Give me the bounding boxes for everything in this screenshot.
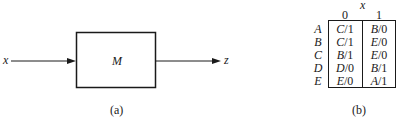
input-label: x [3, 54, 8, 66]
row-label-c: C [312, 49, 324, 61]
output-arrowhead-icon [212, 58, 221, 64]
table-cell: E/0 [363, 49, 395, 61]
row-label-a: A [312, 23, 324, 35]
table-cell: B/1 [329, 49, 361, 61]
table-cell: C/1 [329, 36, 361, 48]
table-cell: D/0 [329, 62, 361, 74]
table-cell: E/0 [329, 75, 361, 87]
table-cell: B/0 [363, 23, 395, 35]
row-label-d: D [312, 62, 324, 74]
output-label: z [224, 54, 229, 66]
table-cell: A/1 [363, 75, 395, 87]
row-label-b: B [312, 36, 324, 48]
caption-b: (b) [352, 104, 366, 116]
table-cell: B/1 [363, 62, 395, 74]
row-label-e: E [312, 75, 324, 87]
table-cell: C/1 [329, 23, 361, 35]
machine-label: M [112, 55, 122, 67]
caption-a: (a) [110, 104, 123, 116]
input-arrowhead-icon [67, 58, 76, 64]
table-cell: E/0 [363, 36, 395, 48]
